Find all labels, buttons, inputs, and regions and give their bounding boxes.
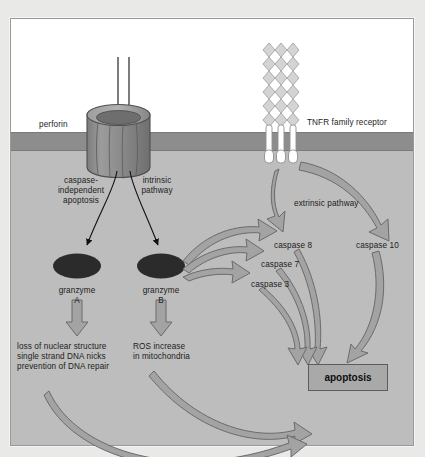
granzyme-b-line1: granzyme: [131, 286, 191, 296]
granzyme-b-line2: B: [131, 296, 191, 306]
apoptosis-label: apoptosis: [324, 372, 371, 383]
perforin-label: perforin: [39, 120, 68, 130]
caspase-independent-line3: apoptosis: [43, 196, 119, 206]
granzyme-a-effect-line2: single strand DNA nicks: [17, 352, 147, 362]
intrinsic-line2: pathway: [129, 186, 185, 196]
granzyme-b-to-caspases-arrows: [183, 219, 277, 283]
granzyme-b-effects: ROS increase in mitochondria: [133, 342, 213, 362]
caspase-7-label: caspase 7: [261, 260, 299, 270]
tnfr-receptor: [263, 43, 299, 163]
tnfr-receptor-label: TNFR family receptor: [307, 118, 387, 128]
apoptosis-outcome-box: apoptosis: [308, 364, 388, 391]
granzyme-b-effect-line1: ROS increase: [133, 342, 213, 352]
granzyme-a-body: [53, 254, 101, 279]
granzyme-a-effects: loss of nuclear structure single strand …: [17, 342, 147, 373]
granzyme-a-label: granzyme A: [47, 286, 107, 306]
granzyme-a-effect-line3: prevention of DNA repair: [17, 362, 147, 372]
caspase-independent-pathway-label: caspase- independent apoptosis: [43, 176, 119, 207]
granzyme-a-line2: A: [47, 296, 107, 306]
figure-container: perforin TNFR family receptor caspase- i…: [0, 0, 425, 457]
caspase-3-label: caspase 3: [251, 280, 289, 290]
granzyme-bodies: [53, 254, 185, 279]
extrinsic-pathway-label: extrinsic pathway: [294, 199, 359, 209]
perforin-pore: [87, 105, 150, 179]
granzyme-a-line1: granzyme: [47, 286, 107, 296]
granzyme-b-effect-line2: in mitochondria: [133, 352, 213, 362]
diagram-frame: perforin TNFR family receptor caspase- i…: [10, 18, 414, 446]
caspase-independent-line2: independent: [43, 186, 119, 196]
granzyme-a-effect-line1: loss of nuclear structure: [17, 342, 147, 352]
caspase-independent-line1: caspase-: [43, 176, 119, 186]
intrinsic-line1: intrinsic: [129, 176, 185, 186]
cropped-caption-top: [120, 2, 310, 14]
bottom-sweep-arrows: [44, 371, 312, 457]
granzyme-b-body: [137, 254, 185, 279]
caspase-10-label: caspase 10: [356, 241, 399, 251]
intrinsic-pathway-label: intrinsic pathway: [129, 176, 185, 196]
granzyme-b-label: granzyme B: [131, 286, 191, 306]
caspase-8-label: caspase 8: [274, 241, 312, 251]
